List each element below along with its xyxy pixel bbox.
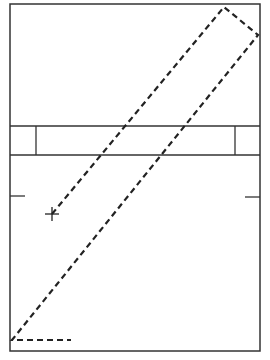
diagram-canvas	[0, 0, 270, 360]
diagram-svg	[0, 0, 270, 360]
